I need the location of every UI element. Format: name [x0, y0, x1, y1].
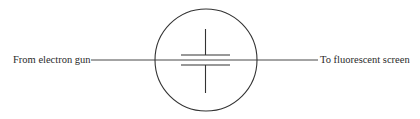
- label-to-fluorescent-screen: To fluorescent screen: [320, 54, 410, 66]
- label-from-electron-gun: From electron gun: [13, 54, 91, 66]
